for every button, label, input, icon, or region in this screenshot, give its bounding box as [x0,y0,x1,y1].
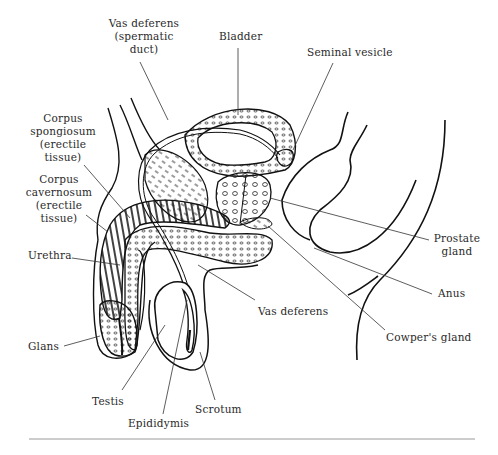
label-corpus-cavernosum: Corpus cavernosum (erectile tissue) [24,173,94,225]
label-corpus-spongiosum: Corpus spongiosum (erectile tissue) [28,112,98,164]
anatomy-diagram: Vas deferens (spermatic duct) Bladder Se… [0,0,498,455]
label-cowpers-gland: Cowper's gland [386,331,472,344]
label-bladder: Bladder [219,30,262,43]
rear-outline [282,112,445,360]
label-scrotum: Scrotum [195,403,242,416]
label-testis: Testis [92,395,124,408]
label-seminal-vesicle: Seminal vesicle [307,46,393,59]
bladder-shape [185,109,295,176]
corpus-spongiosum-shape [125,227,272,350]
diagram-drawing [0,0,498,455]
label-vas-deferens-bottom: Vas deferens [258,305,328,318]
label-vas-deferens-top: Vas deferens (spermatic duct) [104,17,184,56]
label-anus: Anus [438,287,465,300]
label-prostate-gland: Prostate gland [432,232,482,258]
label-epididymis: Epididymis [128,417,189,430]
label-urethra: Urethra [28,249,72,262]
label-glans: Glans [28,340,59,353]
